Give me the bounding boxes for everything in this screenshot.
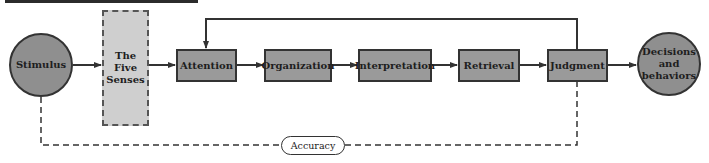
accuracy-pill: Accuracy [281, 136, 345, 155]
five-senses-label-line2: Five [114, 62, 137, 74]
judgment-label: Judgment [550, 60, 605, 72]
interpretation-node: Interpretation [358, 49, 432, 82]
five-senses-label-line1: The [115, 50, 136, 62]
organization-node: Organization [264, 49, 332, 82]
attention-node: Attention [176, 49, 237, 82]
decisions-label-line3: behaviors [642, 70, 696, 82]
retrieval-node: Retrieval [458, 49, 520, 82]
interpretation-label: Interpretation [355, 60, 435, 72]
dashed-accuracy-line-right [345, 81, 577, 145]
organization-label: Organization [261, 60, 334, 72]
accuracy-label: Accuracy [291, 140, 336, 151]
five-senses-label-line3: Senses [106, 74, 144, 86]
feedback-loop-judgment-to-attention [206, 19, 577, 49]
retrieval-label: Retrieval [464, 60, 515, 72]
attention-label: Attention [180, 60, 233, 72]
judgment-node: Judgment [547, 49, 608, 82]
decisions-label-line2: and [659, 58, 680, 70]
five-senses-node: The Five Senses [102, 10, 149, 126]
stimulus-label: Stimulus [16, 59, 66, 71]
decisions-node: Decisions and behaviors [637, 32, 701, 96]
dashed-accuracy-line [41, 97, 281, 145]
decisions-label-line1: Decisions [642, 46, 696, 58]
stimulus-node: Stimulus [9, 33, 73, 97]
